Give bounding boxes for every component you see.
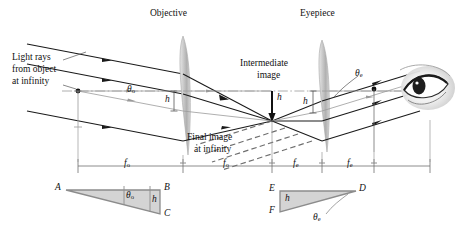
intermediate-image-arrow (268, 91, 275, 123)
triangle-def-vertex-d: D (359, 183, 366, 193)
intermediate-image-line-2: image (257, 70, 280, 80)
eyepiece-label: Eyepiece (300, 8, 335, 18)
f-o-left-subscript: o (127, 161, 130, 168)
focal-length-rule (78, 159, 430, 173)
triangle-abc-vertex-a: A (55, 182, 61, 192)
eye-iris (413, 78, 426, 95)
triangle-abc-side-h: h (152, 194, 157, 204)
h-objective-label: h (165, 94, 170, 104)
f-o-right-label: fo (223, 158, 229, 168)
light-rays-line-1: Light rays (12, 52, 51, 62)
light-rays-line-2: from object (12, 64, 56, 74)
theta-e-subscript: e (360, 71, 363, 78)
light-rays-line-3: at infinity (12, 76, 49, 86)
figure-canvas: Objective Eyepiece Light rays from objec… (0, 0, 458, 231)
triangle-abc-theta-subscript: o (131, 193, 134, 200)
triangle-def-theta-subscript: e (318, 215, 321, 222)
final-image-line-1: Final image (187, 132, 232, 142)
triangle-def-angle-label: θe (313, 212, 321, 222)
chief-ray-image-to-eyepiece (272, 111, 322, 121)
ray-diagram-svg (0, 0, 458, 231)
triangle-abc (66, 186, 160, 214)
h-intermediate-label: h (277, 92, 282, 102)
triangle-def-vertex-e: E (269, 183, 275, 193)
theta-o-subscript: o (132, 87, 135, 94)
theta-e-main-label: θe (355, 68, 363, 78)
h-objective-marker (171, 91, 178, 111)
triangle-abc-vertex-b: B (164, 182, 170, 192)
light-rays-leader (63, 52, 86, 89)
f-e-left-label: fe (293, 158, 299, 168)
eye-highlight (415, 81, 418, 84)
objective-label: Objective (150, 8, 187, 18)
h-eyepiece-marker (310, 91, 317, 113)
f-o-right-subscript: o (226, 161, 229, 168)
triangle-def-vertex-f: F (269, 205, 275, 215)
h-eyepiece-label: h (303, 96, 308, 106)
mid-ray-arrowheads (206, 90, 231, 130)
f-e-right-subscript: e (350, 161, 353, 168)
final-image-line-2: at infinity (194, 144, 231, 154)
rays-image-to-eyepiece (272, 101, 322, 141)
intermediate-image-line-1: Intermediate (240, 58, 288, 68)
theta-o-main-label: θo (127, 84, 135, 94)
f-e-left-subscript: e (296, 161, 299, 168)
triangle-def-side-h: h (285, 193, 290, 203)
eye-illustration (400, 65, 455, 110)
f-e-right-label: fe (347, 158, 353, 168)
triangle-abc-vertex-c: C (164, 208, 170, 218)
eyepiece-lens (319, 40, 329, 152)
rays-objective-to-image (183, 74, 272, 141)
f-o-left-label: fo (124, 158, 130, 168)
triangle-def (280, 191, 356, 214)
triangle-abc-angle-label: θo (126, 190, 134, 200)
incoming-ray-arrowheads (102, 59, 112, 130)
